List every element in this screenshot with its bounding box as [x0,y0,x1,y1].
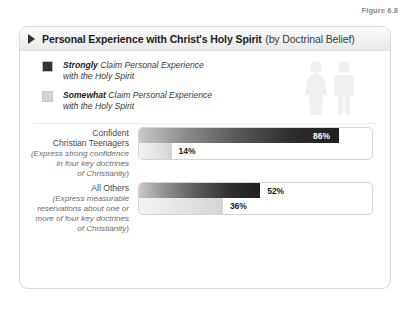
bar-value-strongly-all-others: 52% [267,186,284,196]
legend-divider [34,123,376,124]
legend-emphasis-strongly: Strongly [63,60,98,70]
bar-row-somewhat-confident: 14% [139,143,372,159]
group-label-line1: Confident [20,128,129,138]
chart-group-all-others: All Others (Express measurable reservati… [20,182,390,233]
page-title: Personal Experience with Christ's Holy S… [42,33,262,45]
group-note-line1: (Express measurable [20,194,129,204]
group-label-all-others: All Others (Express measurable reservati… [20,182,138,233]
chart-group-confident-christian-teenagers: Confident Christian Teenagers (Express s… [20,127,390,178]
legend-swatch-somewhat [42,91,53,102]
legend-text-strongly-line2: with the Holy Spirit [63,71,134,81]
bar-row-strongly-confident: 86% [139,128,372,143]
group-label-line2: Christian Teenagers [20,138,129,148]
bar-value-strongly-confident: 86% [313,131,330,141]
group-bars-all-others: 52% 36% [138,182,373,215]
female-figure-icon [305,61,327,115]
group-bars-confident: 86% 14% [138,127,373,160]
group-label-confident: Confident Christian Teenagers (Express s… [20,127,138,178]
figure-caption: Figure 6.8 [362,6,398,15]
bar-row-strongly-all-others: 52% [139,183,372,198]
chart-plot-area: Confident Christian Teenagers (Express s… [20,127,390,238]
male-figure-icon [334,61,354,115]
page-subtitle: (by Doctrinal Belief) [265,33,355,45]
group-note-line2: reservations about one or [20,204,129,214]
legend-label-strongly: Strongly Claim Personal Experience with … [63,60,204,81]
bar-value-somewhat-all-others: 36% [230,201,247,211]
legend-emphasis-somewhat: Somewhat [63,90,106,100]
legend-text-strongly: Claim Personal Experience [98,60,204,70]
bar-fill-strongly-all-others [139,183,260,198]
group-note-line1: (Express strong confidence [20,149,129,159]
group-label-line1: All Others [20,183,129,193]
chart-legend: Strongly Claim Personal Experience with … [20,51,390,122]
group-note-line3: more of four key doctrines [20,214,129,224]
chart-card: Personal Experience with Christ's Holy S… [19,26,391,289]
bar-fill-somewhat-all-others [139,198,223,214]
group-note-line3: of Christianity) [20,169,129,179]
bar-fill-somewhat-confident [139,143,172,159]
legend-text-somewhat: Claim Personal Experience [106,90,212,100]
triangle-right-icon [28,34,35,44]
legend-label-somewhat: Somewhat Claim Personal Experience with … [63,90,212,111]
group-note-line4: of Christianity) [20,224,129,234]
bar-row-somewhat-all-others: 36% [139,198,372,214]
chart-header: Personal Experience with Christ's Holy S… [20,27,390,51]
people-decor-group [300,59,362,115]
legend-swatch-strongly [42,61,53,72]
group-note-line2: in four key doctrines [20,159,129,169]
bar-fill-strongly-confident [139,128,339,143]
bar-value-somewhat-confident: 14% [179,146,196,156]
legend-text-somewhat-line2: with the Holy Spirit [63,101,134,111]
